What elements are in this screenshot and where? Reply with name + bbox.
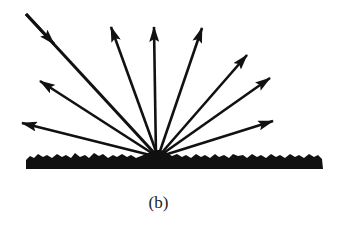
ray-right-upper — [158, 55, 247, 157]
ray-left-low — [22, 123, 158, 157]
ray-right-mid — [158, 78, 270, 157]
reflected-rays — [22, 27, 273, 157]
ray-up-left — [111, 27, 158, 157]
ray-up-right — [158, 28, 202, 157]
figure-caption: (b) — [0, 193, 317, 213]
ray-vertical — [154, 27, 156, 157]
